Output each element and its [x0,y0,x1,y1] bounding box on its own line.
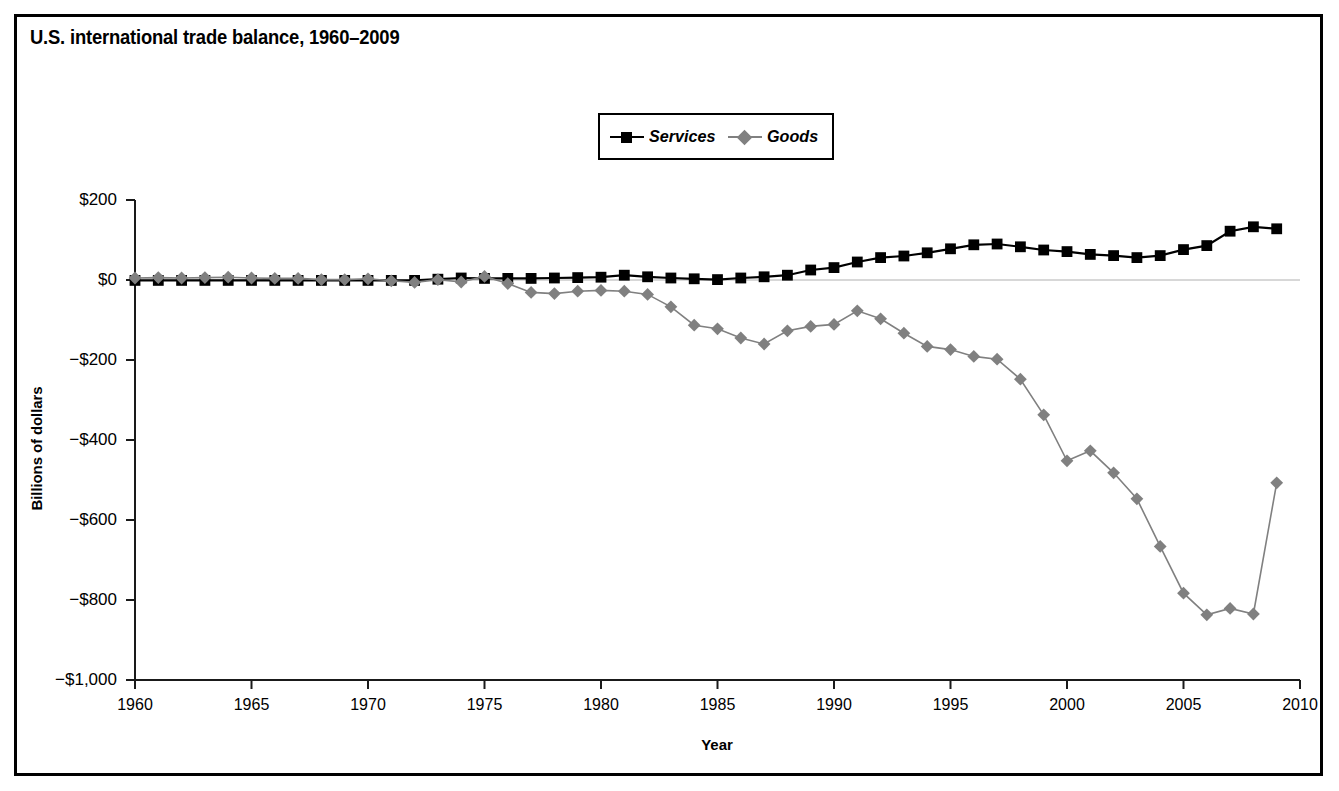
chart-figure: U.S. international trade balance, 1960–2… [0,0,1339,791]
x-tick-label: 1975 [467,696,503,714]
x-tick-label: 1960 [117,696,153,714]
y-tick-label: −$800 [0,590,117,610]
x-tick-label: 1990 [816,696,852,714]
x-tick-label: 2010 [1282,696,1318,714]
x-axis-title: Year [701,736,733,753]
y-tick-label: $200 [0,190,117,210]
x-tick-label: 1985 [700,696,736,714]
x-tick-label: 1970 [350,696,386,714]
y-tick-label: −$200 [0,350,117,370]
y-tick-label: −$400 [0,430,117,450]
legend-marker-diamond-icon [728,129,762,145]
legend-label-goods: Goods [767,127,818,147]
y-tick-label: −$600 [0,510,117,530]
x-tick-label: 2005 [1166,696,1202,714]
y-tick-label: $0 [0,270,117,290]
x-tick-label: 1965 [234,696,270,714]
x-tick-label: 1995 [933,696,969,714]
x-tick-label: 1980 [583,696,619,714]
y-tick-label: −$1,000 [0,670,117,690]
legend-label-services: Services [649,127,715,147]
x-tick-label: 2000 [1049,696,1085,714]
legend-item-goods: Goods [728,115,821,158]
chart-legend: Services Goods [598,113,834,160]
legend-item-services: Services [610,115,719,158]
page-title: U.S. international trade balance, 1960–2… [30,26,399,49]
legend-marker-square-icon [610,129,644,145]
